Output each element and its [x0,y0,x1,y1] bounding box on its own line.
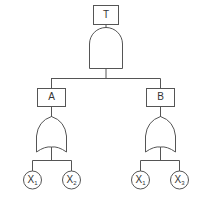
event-b-label: B [146,92,175,102]
basic-event-subscript: 1 [142,180,145,186]
basic-event-subscript: 3 [181,180,184,186]
basic-event-label: X3 [170,175,189,186]
basic-event-subscript: 2 [73,180,76,186]
basic-event-label: X2 [62,175,81,186]
event-a-label: A [37,92,66,102]
basic-event-subscript: 1 [34,180,37,186]
or-gate-icon [37,117,67,153]
basic-event-label: X1 [23,175,42,186]
and-gate-icon [90,28,123,69]
basic-event-label: X1 [131,175,150,186]
top-event-label: T [93,10,119,20]
or-gate-icon [146,117,176,153]
